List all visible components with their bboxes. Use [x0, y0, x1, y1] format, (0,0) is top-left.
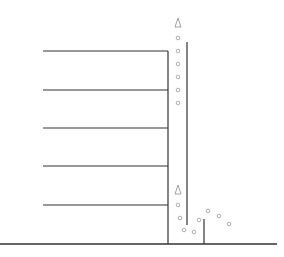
bubble-icon: [217, 214, 221, 218]
building-floors: [43, 51, 168, 205]
bubble-icon: [182, 228, 186, 232]
bubble-icon: [206, 209, 210, 213]
bubble-icon: [176, 88, 180, 92]
bubble-icon: [176, 62, 180, 66]
bubble-icon: [178, 216, 182, 220]
bubble-icon: [197, 218, 201, 222]
triangle-markers: [175, 18, 181, 194]
bubbles: [176, 36, 231, 234]
bubble-icon: [176, 203, 180, 207]
bubble-icon: [176, 36, 180, 40]
bubble-icon: [192, 230, 196, 234]
bubble-icon: [176, 101, 180, 105]
diagram-canvas: [0, 0, 284, 257]
bubble-icon: [176, 75, 180, 79]
triangle-marker-icon: [175, 185, 181, 194]
bubble-icon: [227, 222, 231, 226]
triangle-marker-icon: [175, 18, 181, 27]
bubble-icon: [176, 49, 180, 53]
